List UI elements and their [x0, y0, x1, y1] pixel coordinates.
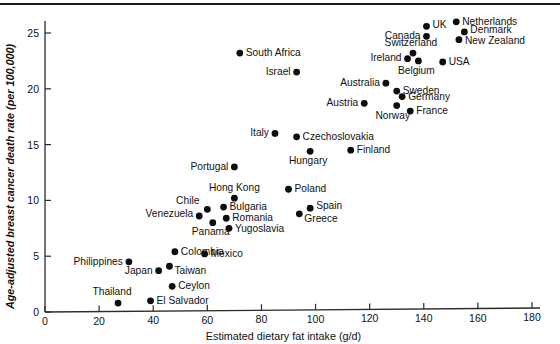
x-axis-tick-label: 140 — [415, 312, 433, 324]
data-point-marker[interactable] — [223, 215, 230, 222]
data-point-marker[interactable] — [285, 186, 292, 193]
data-point-label: Taiwan — [174, 265, 206, 276]
data-point-label: Yugoslavia — [235, 223, 285, 234]
data-point-label: Ceylon — [178, 280, 210, 291]
data-point-marker[interactable] — [293, 69, 300, 76]
data-point-label: France — [416, 105, 448, 116]
data-point-label: Bulgaria — [230, 201, 268, 212]
y-axis-tick-label: 15 — [27, 139, 39, 151]
data-point-label: Portugal — [190, 161, 228, 172]
x-axis-tick-label: 0 — [42, 315, 48, 327]
data-point-marker[interactable] — [220, 204, 227, 211]
scatter-plot-canvas: 0204060801001201401601800510152025Estima… — [0, 0, 560, 344]
data-point-label: Japan — [125, 265, 153, 276]
data-point-marker[interactable] — [293, 133, 300, 140]
data-point-label: USA — [449, 56, 470, 67]
data-point-marker[interactable] — [125, 258, 132, 265]
data-point-marker[interactable] — [236, 50, 243, 57]
data-point-label: Canada — [385, 30, 421, 41]
data-point-label: Thailand — [93, 286, 132, 297]
data-point-label: Finland — [357, 144, 391, 155]
data-point-label: Spain — [316, 200, 342, 211]
y-axis-tick-label: 5 — [33, 250, 39, 262]
x-axis-tick-label: 20 — [93, 315, 105, 327]
data-point-label: Austria — [327, 97, 359, 108]
x-axis-tick-label: 120 — [361, 312, 379, 324]
data-point-marker[interactable] — [166, 263, 173, 270]
x-axis-tick-label: 160 — [469, 312, 487, 324]
data-point-marker[interactable] — [383, 80, 390, 87]
data-point-label: Italy — [250, 127, 270, 138]
data-point-marker[interactable] — [147, 297, 154, 304]
data-point-marker[interactable] — [404, 55, 411, 62]
x-axis-tick-label: 80 — [256, 313, 268, 325]
data-point-marker[interactable] — [155, 267, 162, 274]
data-point-marker[interactable] — [393, 102, 400, 109]
x-axis-tick-label: 100 — [307, 313, 325, 325]
y-axis-tick-label: 10 — [27, 194, 39, 206]
y-axis-tick-label: 0 — [33, 306, 39, 318]
data-point-label: El Salvador — [157, 295, 210, 306]
data-point-marker[interactable] — [461, 28, 468, 35]
data-point-label: Colombia — [181, 246, 224, 257]
data-point-marker[interactable] — [453, 18, 460, 25]
data-point-label: Australia — [340, 77, 380, 88]
data-point-marker[interactable] — [361, 100, 368, 107]
data-point-marker[interactable] — [415, 58, 422, 65]
data-point-label: Poland — [295, 183, 327, 194]
data-point-marker[interactable] — [171, 248, 178, 255]
data-point-label: Chile — [176, 195, 200, 206]
data-point-label: Hungary — [289, 155, 328, 166]
data-point-marker[interactable] — [307, 205, 314, 212]
data-point-marker[interactable] — [456, 36, 463, 43]
data-point-label: Belgium — [398, 65, 435, 76]
data-point-label: Hong Kong — [209, 182, 260, 193]
data-point-label: New Zealand — [465, 35, 525, 46]
data-point-marker[interactable] — [423, 33, 430, 40]
data-point-label: Ireland — [370, 52, 401, 63]
data-point-label: Israel — [266, 66, 291, 77]
x-axis-tick-label: 40 — [147, 314, 159, 326]
data-point-marker[interactable] — [169, 283, 176, 290]
data-point-marker[interactable] — [231, 164, 238, 171]
x-axis-title: Estimated dietary fat intake (g/d) — [206, 330, 361, 342]
data-point-label: UK — [432, 19, 446, 30]
data-point-label: Panama — [192, 226, 230, 237]
data-point-marker[interactable] — [296, 210, 303, 217]
data-point-marker[interactable] — [307, 148, 314, 155]
data-point-marker[interactable] — [231, 195, 238, 202]
data-point-label: South Africa — [246, 47, 301, 58]
data-point-label: Netherlands — [462, 16, 517, 27]
scatter-plot-figure: 0204060801001201401601800510152025Estima… — [0, 0, 560, 344]
data-point-label: Venezuela — [146, 208, 194, 219]
data-point-label: Norway — [375, 110, 410, 121]
data-point-label: Philippines — [74, 256, 123, 267]
x-axis-tick-label: 180 — [523, 311, 541, 323]
data-point-marker[interactable] — [347, 147, 354, 154]
y-axis-tick-label: 20 — [27, 83, 39, 95]
data-point-marker[interactable] — [272, 130, 279, 137]
data-point-label: Greece — [304, 213, 338, 224]
data-point-marker[interactable] — [196, 213, 203, 220]
data-point-marker[interactable] — [204, 206, 211, 213]
data-point-marker[interactable] — [439, 59, 446, 66]
data-point-label: Sweden — [403, 85, 440, 96]
data-point-label: Czechoslovakia — [303, 131, 375, 142]
x-axis-line — [45, 308, 540, 312]
data-point-marker[interactable] — [423, 23, 430, 30]
data-point-label: Romania — [232, 212, 273, 223]
data-point-marker[interactable] — [115, 300, 122, 307]
x-axis-tick-label: 60 — [201, 314, 213, 326]
data-point-marker[interactable] — [393, 88, 400, 95]
data-point-marker[interactable] — [410, 50, 417, 57]
y-axis-title: Age-adjusted breast cancer death rate (p… — [4, 43, 16, 310]
y-axis-tick-label: 25 — [27, 27, 39, 39]
